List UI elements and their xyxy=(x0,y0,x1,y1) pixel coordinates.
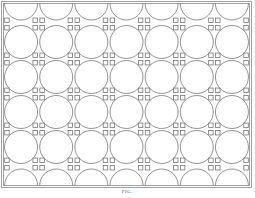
junction-square xyxy=(180,53,185,58)
junction-square xyxy=(174,130,179,135)
junction-square xyxy=(145,123,150,128)
junction-square xyxy=(75,95,80,100)
junction-square xyxy=(75,25,80,30)
junction-square xyxy=(103,123,108,128)
junction-square xyxy=(40,123,45,128)
junction-square xyxy=(110,165,115,170)
junction-square xyxy=(75,53,80,58)
junction-square xyxy=(110,88,115,93)
junction-square xyxy=(216,165,221,170)
junction-square xyxy=(40,95,45,100)
bottom-half-circle xyxy=(40,169,73,185)
junction-square xyxy=(174,60,179,64)
junction-square xyxy=(103,130,108,135)
junction-square xyxy=(244,95,249,100)
junction-square xyxy=(138,53,143,58)
junction-square xyxy=(5,165,10,170)
junction-square xyxy=(40,53,45,58)
junction-square xyxy=(174,165,179,170)
junction-square xyxy=(68,18,73,23)
junction-square xyxy=(145,130,150,135)
bottom-half-circle xyxy=(180,169,213,185)
junction-square xyxy=(68,158,73,163)
junction-square xyxy=(5,130,10,135)
junction-square xyxy=(216,130,221,135)
junction-square xyxy=(180,123,185,128)
junction-square xyxy=(40,18,45,23)
junction-square xyxy=(244,165,249,170)
junction-square xyxy=(145,165,150,170)
junction-square xyxy=(75,123,80,128)
junction-square xyxy=(75,158,80,163)
junction-square xyxy=(216,60,221,64)
bottom-half-circle xyxy=(145,169,178,185)
junction-square xyxy=(180,165,185,170)
top-half-circle xyxy=(40,4,73,21)
junction-square xyxy=(174,88,179,93)
junction-square xyxy=(68,123,73,128)
junction-square xyxy=(180,88,185,93)
junction-square xyxy=(174,95,179,100)
junction-square xyxy=(110,123,115,128)
junction-square xyxy=(209,53,214,58)
junction-square xyxy=(103,158,108,163)
junction-square xyxy=(145,158,150,163)
junction-square xyxy=(33,88,38,93)
junction-square xyxy=(138,130,143,135)
junction-square xyxy=(5,95,10,100)
junction-square xyxy=(75,130,80,135)
junction-square xyxy=(138,25,143,30)
junction-square xyxy=(174,158,179,163)
junction-square xyxy=(209,60,214,64)
junction-square xyxy=(5,88,10,93)
junction-square xyxy=(103,60,108,64)
junction-square xyxy=(138,123,143,128)
junction-square xyxy=(209,123,214,128)
junction-square xyxy=(174,123,179,128)
junction-square xyxy=(75,18,80,23)
junction-square xyxy=(145,25,150,30)
junction-square xyxy=(110,18,115,23)
junction-square xyxy=(103,25,108,30)
bottom-half-circle xyxy=(110,169,143,185)
junction-square xyxy=(75,88,80,93)
junction-square xyxy=(103,95,108,100)
junction-square xyxy=(216,95,221,100)
junction-square xyxy=(40,25,45,30)
junction-square xyxy=(145,53,150,58)
top-half-circle xyxy=(75,4,108,21)
junction-square xyxy=(33,18,38,23)
junction-square xyxy=(138,18,143,23)
junction-square xyxy=(5,18,10,23)
junction-square xyxy=(209,130,214,135)
junction-square xyxy=(216,123,221,128)
junction-square xyxy=(145,88,150,93)
junction-square xyxy=(138,88,143,93)
junction-square xyxy=(5,123,10,128)
junction-square xyxy=(33,60,38,64)
junction-square xyxy=(110,25,115,30)
junction-square xyxy=(68,95,73,100)
junction-square xyxy=(145,18,150,23)
junction-square xyxy=(5,53,10,58)
junction-square xyxy=(40,165,45,170)
top-half-circle xyxy=(145,4,178,21)
junction-square xyxy=(145,60,150,64)
junction-square xyxy=(174,25,179,30)
junction-square xyxy=(180,130,185,135)
junction-square xyxy=(209,18,214,23)
junction-square xyxy=(244,18,249,23)
junction-square xyxy=(110,130,115,135)
junction-square xyxy=(75,60,80,64)
top-half-circle xyxy=(5,4,38,21)
junction-square xyxy=(68,25,73,30)
junction-square xyxy=(110,53,115,58)
junction-square xyxy=(180,95,185,100)
junction-square xyxy=(40,158,45,163)
bottom-half-circle xyxy=(5,169,38,185)
junction-square xyxy=(103,53,108,58)
junction-square xyxy=(244,158,249,163)
junction-square xyxy=(68,53,73,58)
junction-square xyxy=(209,158,214,163)
junction-square xyxy=(68,130,73,135)
